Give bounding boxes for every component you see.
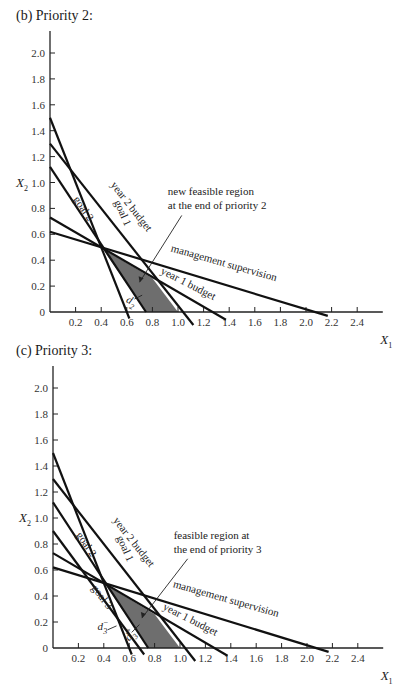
line-management-supervision [53, 567, 329, 652]
x-tick-label: 1.0 [171, 316, 185, 328]
x-tick-label: 2.0 [299, 316, 313, 328]
y-axis-label: X2 [18, 510, 31, 528]
y-tick-label: 0.6 [31, 228, 45, 240]
x-tick-label: 0.2 [69, 316, 83, 328]
y-tick-label: 0.8 [34, 538, 48, 550]
y-tick-label: 0.6 [34, 564, 48, 576]
x-axis-label: X1 [380, 668, 393, 686]
feasible-region-annotation: feasible region at [174, 529, 250, 541]
feasible-region-annotation: the end of priority 3 [174, 543, 262, 555]
x-tick-label: 1.2 [197, 316, 211, 328]
y-tick-label: 1.0 [31, 177, 45, 189]
y-tick-label: 0.2 [34, 616, 48, 628]
line-goal-2 [50, 167, 146, 312]
x-tick-label: 1.6 [248, 316, 262, 328]
x-tick-label: 0.4 [97, 652, 111, 664]
y-tick-label: 1.8 [31, 73, 45, 85]
y-tick-label: 1.8 [34, 408, 48, 420]
x-tick-label: 2.0 [300, 652, 314, 664]
y-tick-label: 0.4 [31, 254, 45, 266]
x-tick-label: 2.4 [351, 652, 365, 664]
y-tick-label: 1.4 [31, 125, 45, 137]
x-tick-label: 1.8 [275, 652, 289, 664]
label-year-1-budget: year 1 budget [161, 600, 220, 638]
x-tick-label: 0.6 [122, 652, 136, 664]
x-axis-label: X1 [379, 332, 392, 350]
feasible-region-annotation: at the end of priority 2 [168, 199, 267, 211]
panel-c-plot: 0.20.40.60.81.01.21.41.61.82.02.22.400.2… [18, 366, 393, 686]
line-year-1-budget [50, 217, 226, 319]
y-tick-label: 0 [40, 306, 46, 318]
x-tick-label: 1.2 [199, 652, 213, 664]
x-tick-label: 2.2 [326, 652, 340, 664]
x-tick-label: 1.6 [249, 652, 263, 664]
x-tick-label: 1.0 [173, 652, 187, 664]
x-tick-label: 2.4 [350, 316, 364, 328]
y-tick-label: 1.6 [31, 99, 45, 111]
label-year-1-budget: year 1 budget [159, 264, 218, 302]
x-tick-label: 0.8 [148, 652, 162, 664]
y-tick-label: 0.8 [31, 202, 45, 214]
y-tick-label: 0.4 [34, 590, 48, 602]
deviation-d3-minus: d−3 [97, 618, 108, 636]
lp-goal-programming-diagram: 0.20.40.60.81.01.21.41.61.82.02.22.400.2… [0, 0, 403, 687]
y-tick-label: 1.6 [34, 434, 48, 446]
y-tick-label: 1.4 [34, 460, 48, 472]
y-tick-label: 2.0 [31, 47, 45, 59]
x-tick-label: 0.6 [120, 316, 134, 328]
y-tick-label: 2.0 [34, 382, 48, 394]
x-tick-label: 2.2 [325, 316, 339, 328]
y-tick-label: 0 [43, 642, 49, 654]
y-tick-label: 0.2 [31, 280, 45, 292]
y-tick-label: 1.2 [34, 486, 48, 498]
x-tick-label: 0.8 [146, 316, 160, 328]
y-tick-label: 1.0 [34, 512, 48, 524]
y-axis-label: X2 [15, 175, 28, 193]
x-tick-label: 0.2 [72, 652, 86, 664]
x-tick-label: 1.8 [274, 316, 288, 328]
y-tick-label: 1.2 [31, 151, 45, 163]
line-management-supervision [50, 232, 328, 316]
feasible-region-annotation: new feasible region [168, 185, 255, 197]
x-tick-label: 0.4 [94, 316, 108, 328]
line-year-1-budget [53, 553, 228, 656]
panel-b-plot: 0.20.40.60.81.01.21.41.61.82.02.22.400.2… [15, 31, 392, 350]
